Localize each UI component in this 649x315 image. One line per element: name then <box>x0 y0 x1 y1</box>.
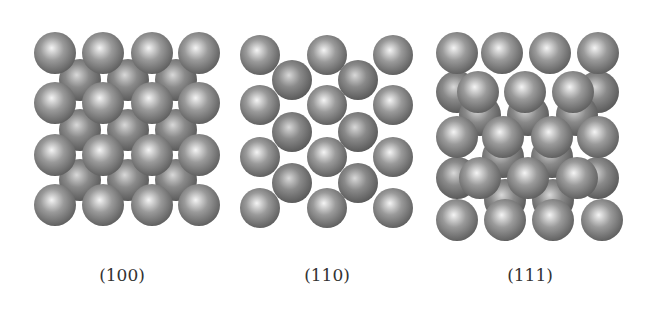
back-layer-atom <box>338 112 378 152</box>
front-layer-atom <box>436 116 478 158</box>
face-110-label: (110) <box>304 265 350 285</box>
front-layer-atom <box>34 32 76 74</box>
front-layer-atom <box>481 32 523 74</box>
front-layer-atom <box>34 82 76 124</box>
front-layer-atom <box>240 188 280 228</box>
front-layer-atom <box>436 199 478 241</box>
front-layer-atom <box>82 134 124 176</box>
front-layer-atom <box>178 134 220 176</box>
front-layer-atom <box>82 184 124 226</box>
front-layer-atom <box>178 32 220 74</box>
front-layer-atom <box>131 184 173 226</box>
back-layer-atom <box>272 112 312 152</box>
front-layer-atom <box>307 85 347 125</box>
front-layer-atom <box>457 71 499 113</box>
front-layer-atom <box>131 32 173 74</box>
front-layer-atom <box>373 137 413 177</box>
face-110-panel <box>240 35 413 228</box>
face-111-panel <box>436 32 623 241</box>
front-layer-atom <box>34 134 76 176</box>
face-100-panel <box>34 32 220 226</box>
front-layer-atom <box>552 71 594 113</box>
front-layer-atom <box>131 82 173 124</box>
sphere-packing-diagram <box>0 0 649 250</box>
front-layer-atom <box>373 188 413 228</box>
front-layer-atom <box>307 137 347 177</box>
back-layer-atom <box>272 60 312 100</box>
front-layer-atom <box>531 116 573 158</box>
front-layer-atom <box>556 157 598 199</box>
front-layer-atom <box>373 85 413 125</box>
front-layer-atom <box>482 116 524 158</box>
front-layer-atom <box>240 137 280 177</box>
front-layer-atom <box>577 32 619 74</box>
front-layer-atom <box>82 82 124 124</box>
front-layer-atom <box>507 157 549 199</box>
front-layer-atom <box>240 35 280 75</box>
front-layer-atom <box>131 134 173 176</box>
front-layer-atom <box>459 157 501 199</box>
front-layer-atom <box>82 32 124 74</box>
front-layer-atom <box>240 85 280 125</box>
front-layer-atom <box>532 199 574 241</box>
front-layer-atom <box>436 32 478 74</box>
face-111-label: (111) <box>507 265 553 285</box>
back-layer-atom <box>272 163 312 203</box>
front-layer-atom <box>34 184 76 226</box>
front-layer-atom <box>373 35 413 75</box>
front-layer-atom <box>504 71 546 113</box>
front-layer-atom <box>307 188 347 228</box>
front-layer-atom <box>307 35 347 75</box>
crystal-faces-figure <box>0 0 649 250</box>
back-layer-atom <box>338 60 378 100</box>
front-layer-atom <box>529 32 571 74</box>
front-layer-atom <box>484 199 526 241</box>
back-layer-atom <box>338 163 378 203</box>
front-layer-atom <box>577 116 619 158</box>
front-layer-atom <box>581 199 623 241</box>
face-100-label: (100) <box>99 265 145 285</box>
front-layer-atom <box>178 184 220 226</box>
front-layer-atom <box>178 82 220 124</box>
